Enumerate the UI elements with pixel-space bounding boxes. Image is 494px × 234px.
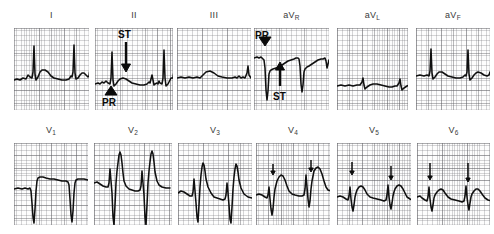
ecg-sheet: IIIIIIaVRaVLaVFV1V2V3V4V5V6STPRPRST xyxy=(0,0,494,234)
annotation-arrow-tick-V6-b xyxy=(0,0,494,234)
